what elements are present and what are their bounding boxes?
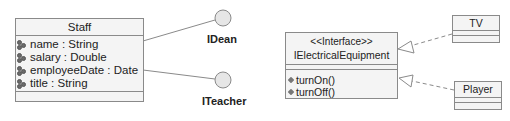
- attribute-icon: [17, 66, 29, 76]
- class-tv-header: TV: [453, 16, 499, 31]
- realization-line-idean: [143, 20, 215, 41]
- interface-lollipop-iteacher[interactable]: [215, 72, 231, 88]
- class-ielectricalequipment[interactable]: <<Interface>> IElectricalEquipment turnO…: [285, 32, 398, 99]
- operation-icon: [288, 77, 295, 84]
- class-staff-name: Staff: [68, 21, 91, 33]
- class-player[interactable]: Player: [454, 81, 502, 110]
- attribute-icon: [17, 79, 29, 89]
- interface-name: IElectricalEquipment: [286, 48, 397, 62]
- attribute-row[interactable]: name : String: [17, 38, 143, 51]
- interface-label-idean: IDean: [207, 33, 237, 45]
- realization-line-tv: [410, 34, 452, 46]
- interface-operations: turnOn() turnOff(): [286, 70, 397, 98]
- attribute-icon: [17, 40, 29, 50]
- class-tv[interactable]: TV: [452, 15, 500, 43]
- interface-header: <<Interface>> IElectricalEquipment: [286, 33, 397, 65]
- realization-line-iteacher: [143, 70, 215, 79]
- class-tv-name: TV: [469, 17, 482, 29]
- interface-lollipop-idean[interactable]: [215, 10, 231, 26]
- operation-icon: [288, 89, 295, 96]
- interface-stereotype: <<Interface>>: [286, 36, 397, 48]
- class-player-header: Player: [455, 82, 501, 98]
- class-staff-header: Staff: [16, 19, 143, 36]
- class-staff-operations: [16, 92, 143, 101]
- operation-row[interactable]: turnOff(): [288, 86, 397, 98]
- attribute-row[interactable]: title : String: [17, 77, 143, 90]
- class-tv-operations: [453, 36, 499, 42]
- class-player-name: Player: [463, 83, 493, 95]
- attribute-row[interactable]: employeeDate : Date: [17, 64, 143, 77]
- operation-row[interactable]: turnOn(): [288, 74, 397, 86]
- realization-arrowhead-player: [399, 75, 413, 87]
- class-staff-attributes: name : String salary : Double employeeDa…: [16, 36, 143, 92]
- attribute-row[interactable]: salary : Double: [17, 51, 143, 64]
- realization-arrowhead-tv: [398, 41, 414, 53]
- class-player-operations: [455, 103, 501, 109]
- attribute-icon: [17, 53, 29, 63]
- interface-label-iteacher: ITeacher: [202, 95, 246, 107]
- realization-line-player: [412, 81, 454, 90]
- class-staff[interactable]: Staff name : String salary : Double empl…: [15, 18, 144, 102]
